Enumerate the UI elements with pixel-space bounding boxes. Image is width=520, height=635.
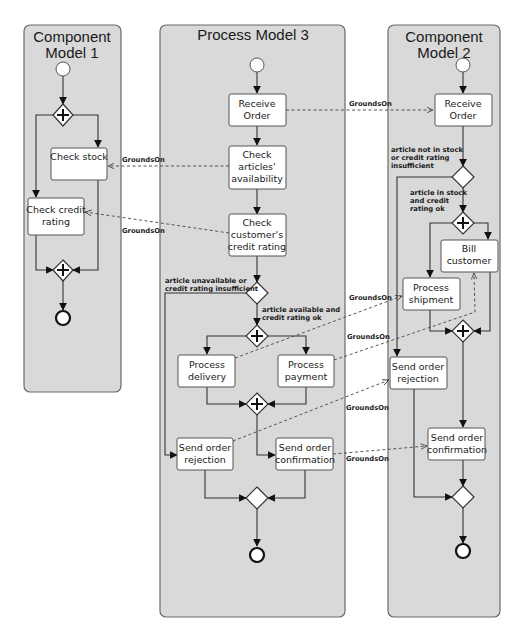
relation-label: GroundsOn (347, 333, 390, 341)
task-label-line2: delivery (188, 371, 227, 382)
relation-label: GroundsOn (346, 455, 389, 463)
pm3-condition-ok-line2: credit rating ok (262, 314, 322, 322)
task-label-line2: Order (450, 110, 477, 121)
task-label: Check stock (50, 151, 108, 162)
task-label-line2: Order (244, 110, 271, 121)
relation-label: GroundsOn (349, 294, 392, 302)
relation-label: GroundsOn (346, 404, 389, 412)
task-label-line1: Check (242, 217, 272, 228)
pm3-condition-ok-line1: article available and (262, 306, 340, 314)
task-label-line1: Send order (179, 442, 231, 453)
task-label-line1: Send order (392, 361, 444, 372)
lane-title-line1: Component (33, 28, 111, 45)
process-diagram: Component Model 1 Process Model 3 Compon… (0, 0, 520, 635)
relation-label: GroundsOn (122, 156, 165, 164)
task-label-line2: rejection (184, 454, 225, 465)
cm2-end-event (456, 544, 470, 558)
cm1-task-check-credit-rating[interactable]: Check credit rating (26, 198, 86, 235)
task-label-line2: customer's (231, 229, 283, 240)
task-label-line3: credit rating (228, 241, 286, 252)
pm3-task-check-articles-availability[interactable]: Check articles' availability (229, 146, 286, 189)
pm3-task-process-delivery[interactable]: Process delivery (178, 355, 235, 387)
task-label-line1: Process (288, 359, 324, 370)
cm2-condition-fail-line1: article not in stock (391, 146, 464, 154)
cm2-condition-fail-line3: insufficient (391, 162, 434, 170)
relation-label: GroundsOn (349, 100, 392, 108)
cm2-condition-ok-line1: article in stock (410, 189, 467, 197)
pm3-start-event (250, 58, 264, 72)
task-label-line2: confirmation (427, 444, 487, 455)
task-label-line1: Process (189, 359, 225, 370)
pm3-end-event (250, 548, 264, 562)
cm1-task-check-stock[interactable]: Check stock (50, 148, 108, 180)
task-label-line3: availability (231, 173, 283, 184)
lane-title-line2: Model 1 (45, 44, 98, 61)
pm3-task-check-customer-credit-rating[interactable]: Check customer's credit rating (228, 214, 286, 256)
task-label-line1: Send order (279, 442, 331, 453)
cm2-start-event (456, 58, 470, 72)
task-label-line2: rejection (397, 373, 438, 384)
cm2-condition-ok-line3: rating ok (410, 205, 445, 213)
task-label-line1: Process (413, 282, 449, 293)
cm2-task-bill-customer[interactable]: Bill customer (441, 240, 498, 272)
task-label-line1: Check credit (26, 204, 86, 215)
pm3-condition-fail-line1: article unavailable or (165, 277, 247, 285)
task-label-line2: confirmation (275, 454, 335, 465)
cm2-task-send-order-confirmation[interactable]: Send order confirmation (427, 428, 487, 460)
pm3-task-send-order-rejection[interactable]: Send order rejection (177, 438, 233, 470)
lane-title-line1: Component (405, 28, 483, 45)
relation-label: GroundsOn (122, 227, 165, 235)
task-label-line2: shipment (409, 294, 454, 305)
lane-title: Process Model 3 (197, 26, 309, 43)
task-label-line2: customer (447, 255, 492, 266)
cm2-task-process-shipment[interactable]: Process shipment (403, 278, 460, 310)
pm3-task-receive-order[interactable]: Receive Order (229, 94, 286, 126)
task-label-line1: Receive (444, 98, 481, 109)
task-label-line2: articles' (238, 161, 275, 172)
cm2-condition-ok-line2: and credit (410, 197, 450, 205)
cm2-condition-fail-line2: or credit rating (391, 154, 450, 162)
cm2-task-send-order-rejection[interactable]: Send order rejection (390, 357, 447, 389)
cm2-task-receive-order[interactable]: Receive Order (435, 94, 492, 126)
cm1-end-event (56, 311, 70, 325)
pm3-task-send-order-confirmation[interactable]: Send order confirmation (275, 438, 335, 470)
task-label-line1: Bill (462, 243, 476, 254)
task-label-line1: Send order (431, 432, 483, 443)
cm1-start-event (56, 62, 70, 76)
task-label-line2: payment (285, 371, 328, 382)
task-label-line2: rating (42, 216, 70, 227)
pm3-task-process-payment[interactable]: Process payment (278, 355, 334, 387)
task-label-line1: Receive (238, 98, 275, 109)
task-label-line1: Check (242, 149, 272, 160)
pm3-condition-fail-line2: credit rating insufficient (165, 285, 259, 293)
